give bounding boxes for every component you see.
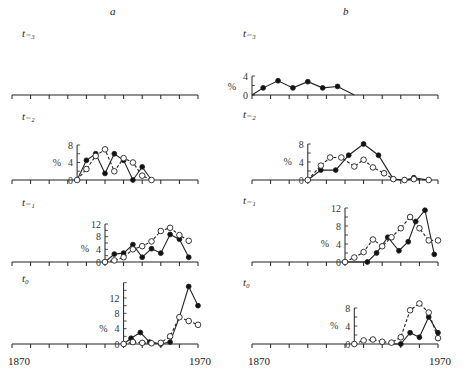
filled-circle-marker xyxy=(149,246,154,251)
open-circle-marker xyxy=(370,165,376,171)
row-label-a-t-3: t₋₃ xyxy=(22,27,35,40)
filled-circle-marker xyxy=(365,260,370,265)
y-tick-label: 0 xyxy=(336,257,341,268)
open-circle-marker xyxy=(361,157,367,163)
y-tick-label: 0 xyxy=(115,339,120,350)
filled-circle-marker xyxy=(186,284,191,289)
y-tick-label: 0 xyxy=(243,90,248,101)
y-tick-label: 8 xyxy=(299,139,304,150)
y-tick-label: 0 xyxy=(345,339,350,350)
column-label-b: b xyxy=(343,5,349,17)
chart-figure: 048%04812%04812%04%048%04812%048% xyxy=(0,0,466,382)
filled-circle-marker xyxy=(186,255,191,260)
filled-circle-marker xyxy=(333,168,338,173)
open-circle-marker xyxy=(130,160,136,166)
series-line-filled xyxy=(105,234,189,262)
open-circle-marker xyxy=(407,214,413,220)
y-tick-label: 8 xyxy=(68,140,73,151)
y-unit-label: % xyxy=(99,323,107,334)
filled-circle-marker xyxy=(291,85,296,90)
filled-circle-marker xyxy=(408,330,413,335)
open-circle-marker xyxy=(370,237,376,243)
open-circle-marker xyxy=(102,147,108,153)
filled-circle-marker xyxy=(423,208,428,213)
filled-circle-marker xyxy=(131,178,136,183)
y-tick-label: 8 xyxy=(345,303,350,314)
open-circle-marker xyxy=(130,247,136,253)
open-circle-marker xyxy=(167,225,173,231)
y-tick-label: 8 xyxy=(336,221,341,232)
open-circle-marker xyxy=(139,243,145,249)
open-circle-marker xyxy=(149,177,155,183)
x-start-label-a: 1870 xyxy=(8,355,30,367)
y-unit-label: % xyxy=(330,320,338,331)
column-label-a: a xyxy=(110,5,116,17)
open-circle-marker xyxy=(112,258,118,264)
open-circle-marker xyxy=(121,341,127,347)
x-end-label-b: 1970 xyxy=(429,355,451,367)
y-unit-label: % xyxy=(81,243,89,254)
open-circle-marker xyxy=(435,335,441,341)
y-tick-label: 0 xyxy=(96,257,101,268)
open-circle-marker xyxy=(426,177,432,183)
open-circle-marker xyxy=(370,337,376,343)
y-unit-label: % xyxy=(321,238,329,249)
open-circle-marker xyxy=(318,163,324,169)
open-circle-marker xyxy=(130,339,136,345)
open-circle-marker xyxy=(398,225,404,231)
y-tick-label: 12 xyxy=(331,203,341,214)
y-tick-label: 0 xyxy=(68,175,73,186)
open-circle-marker xyxy=(158,228,164,234)
y-tick-label: 4 xyxy=(96,244,101,255)
y-tick-label: 4 xyxy=(115,323,120,334)
series-line-open xyxy=(105,228,189,262)
open-circle-marker xyxy=(112,168,118,174)
filled-circle-marker xyxy=(103,171,108,176)
open-circle-marker xyxy=(381,170,387,176)
y-tick-label: 4 xyxy=(336,239,341,250)
open-circle-marker xyxy=(407,307,413,313)
filled-circle-marker xyxy=(432,252,437,257)
filled-circle-marker xyxy=(398,342,403,347)
filled-circle-marker xyxy=(140,255,145,260)
filled-circle-marker xyxy=(112,252,117,257)
open-circle-marker xyxy=(426,310,432,316)
open-circle-marker xyxy=(389,340,395,346)
open-circle-marker xyxy=(102,259,108,265)
open-circle-marker xyxy=(361,338,367,344)
open-circle-marker xyxy=(139,173,145,179)
open-circle-marker xyxy=(338,155,344,161)
filled-circle-marker xyxy=(84,158,89,163)
open-circle-marker xyxy=(186,318,192,324)
filled-circle-marker xyxy=(168,340,173,345)
open-circle-marker xyxy=(167,334,173,340)
row-label-a-t-1: t₋₁ xyxy=(22,196,35,209)
series-line-filled xyxy=(124,287,198,345)
open-circle-marker xyxy=(93,153,99,159)
y-unit-label: % xyxy=(228,81,236,92)
open-circle-marker xyxy=(177,232,183,238)
filled-circle-marker xyxy=(196,303,201,308)
filled-circle-marker xyxy=(168,232,173,237)
open-circle-marker xyxy=(177,314,183,320)
open-circle-marker xyxy=(195,322,201,328)
open-circle-marker xyxy=(186,238,192,244)
open-circle-marker xyxy=(149,239,155,245)
open-circle-marker xyxy=(417,225,423,231)
open-circle-marker xyxy=(361,249,367,255)
filled-circle-marker xyxy=(276,78,281,83)
open-circle-marker xyxy=(139,340,145,346)
series-line-open xyxy=(308,158,429,181)
row-label-b-t-1: t₋₁ xyxy=(243,194,256,207)
series-line-filled xyxy=(308,144,429,180)
series-line-filled xyxy=(392,317,439,344)
y-unit-label: % xyxy=(53,157,61,168)
open-circle-marker xyxy=(426,238,432,244)
filled-circle-marker xyxy=(361,142,366,147)
open-circle-marker xyxy=(305,177,311,183)
y-tick-label: 8 xyxy=(96,231,101,242)
y-tick-label: 0 xyxy=(299,175,304,186)
y-tick-label: 4 xyxy=(345,321,350,332)
open-circle-marker xyxy=(379,243,385,249)
y-tick-label: 4 xyxy=(68,157,73,168)
